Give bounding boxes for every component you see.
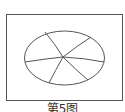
spoke-top: [45, 32, 63, 57]
divided-ellipse-diagram: [0, 0, 125, 112]
spoke-left: [25, 57, 63, 62]
ellipse-spokes: [25, 32, 104, 83]
spoke-upper-right: [63, 37, 91, 57]
spoke-lower-right: [63, 57, 88, 80]
figure-caption: 第5图: [0, 102, 125, 112]
spoke-bottom: [49, 57, 63, 83]
spoke-right: [63, 57, 104, 62]
